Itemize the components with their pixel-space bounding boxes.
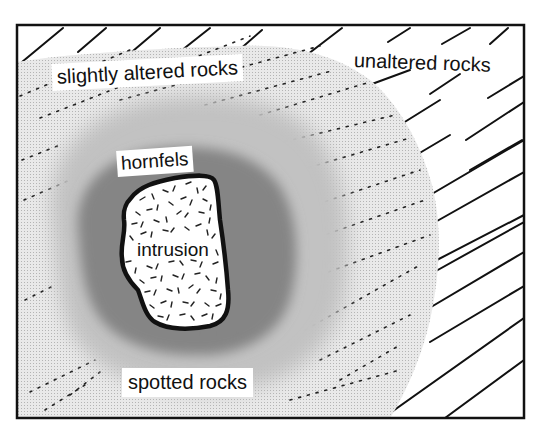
label-intrusion: intrusion [137,240,209,259]
label-unaltered-rocks: unaltered rocks [354,50,491,75]
label-hornfels: hornfels [116,146,193,177]
label-spotted-rocks: spotted rocks [122,368,253,397]
